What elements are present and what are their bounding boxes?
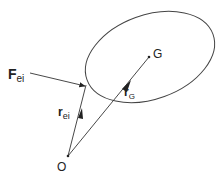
- point-G: [148, 56, 151, 59]
- label-r-ei: rei: [58, 105, 70, 121]
- force-vector-F-ei: [30, 73, 85, 86]
- label-F-ei: Fei: [8, 66, 24, 84]
- label-r-G: rG: [124, 85, 135, 101]
- label-point-O: O: [57, 160, 66, 174]
- rigid-body-diagram: Fei rei rG G O: [0, 0, 222, 178]
- label-point-G: G: [153, 47, 162, 61]
- point-O: [67, 155, 70, 158]
